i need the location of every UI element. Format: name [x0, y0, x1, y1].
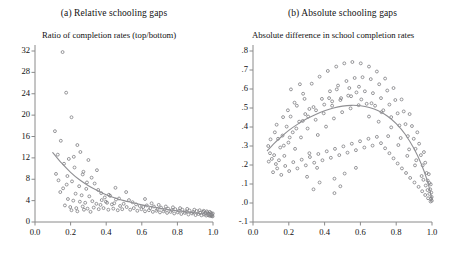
panel-a-plot	[0, 0, 228, 255]
y-tick-label: 8	[26, 173, 30, 183]
y-tick-label: -.1	[239, 216, 248, 226]
x-tick-label: 0.0	[233, 227, 273, 237]
y-tick-label: 24	[21, 88, 30, 98]
y-tick-label: .8	[242, 45, 248, 55]
y-tick-label: .1	[242, 178, 248, 188]
panel-relative-schooling-gaps: (a) Relative schooling gaps Ratio of com…	[0, 0, 228, 255]
y-tick-label: 32	[21, 45, 30, 55]
panel-absolute-schooling-gaps: (b) Absolute schooling gaps Absolute dif…	[228, 0, 457, 255]
x-tick-label: 0.6	[122, 227, 162, 237]
y-tick-label: .6	[242, 83, 248, 93]
x-tick-label: 0.2	[51, 227, 91, 237]
x-tick-label: 0.6	[340, 227, 380, 237]
y-tick-label: 20	[21, 109, 30, 119]
scatter-points	[53, 51, 214, 218]
scatter-points	[267, 61, 434, 203]
x-tick-label: 1.0	[412, 227, 452, 237]
y-tick-label: 12	[21, 152, 30, 162]
y-tick-label: .0	[242, 197, 248, 207]
x-tick-label: 0.4	[305, 227, 345, 237]
x-tick-label: 0.4	[86, 227, 126, 237]
x-tick-label: 0.8	[157, 227, 197, 237]
panel-b-plot	[228, 0, 457, 255]
y-tick-label: .7	[242, 64, 248, 74]
fit-line	[53, 153, 213, 216]
figure-container: (a) Relative schooling gaps Ratio of com…	[0, 0, 457, 255]
y-tick-label: 4	[26, 195, 30, 205]
x-tick-label: 0.2	[269, 227, 309, 237]
y-tick-label: .5	[242, 102, 248, 112]
y-tick-label: 16	[21, 131, 30, 141]
y-tick-label: .2	[242, 159, 248, 169]
fit-line	[267, 105, 432, 200]
x-tick-label: 0.0	[15, 227, 55, 237]
x-tick-label: 1.0	[193, 227, 233, 237]
y-tick-label: 0	[26, 216, 30, 226]
y-tick-label: .3	[242, 140, 248, 150]
y-tick-label: .4	[242, 121, 248, 131]
x-tick-label: 0.8	[376, 227, 416, 237]
y-tick-label: 28	[21, 66, 30, 76]
